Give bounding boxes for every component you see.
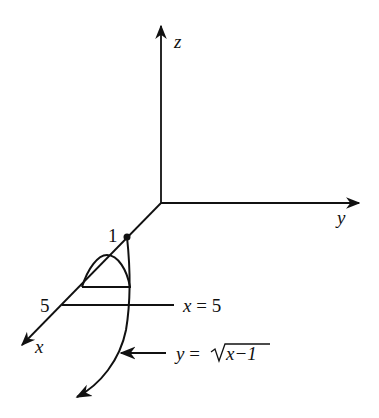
line-x5-eq: = bbox=[191, 295, 211, 316]
x-axis-label: x bbox=[34, 336, 44, 357]
curve-label-eq: = bbox=[184, 343, 199, 364]
tick-label-5: 5 bbox=[40, 295, 50, 316]
z-axis-label: z bbox=[173, 31, 182, 52]
line-x5-val: 5 bbox=[212, 295, 222, 316]
point-label-1: 1 bbox=[108, 225, 118, 246]
line-x5-label: x = 5 bbox=[182, 295, 221, 316]
curve-label-var: y bbox=[174, 343, 185, 364]
curve-label-radicand: x−1 bbox=[225, 343, 257, 364]
3d-region-diagram: z y x 1 5 x = 5 y = x−1 bbox=[0, 0, 379, 418]
x-axis bbox=[22, 203, 161, 345]
curve-label: y = bbox=[174, 343, 200, 364]
y-axis-label: y bbox=[335, 207, 346, 228]
